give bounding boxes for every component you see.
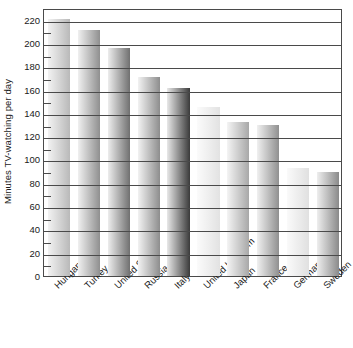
y-tick-label: 200: [14, 39, 40, 49]
y-minor-tick: [44, 196, 51, 197]
y-tick-label: 40: [14, 225, 40, 235]
x-axis-category-labels: HungaryTurkeyUnited StatesRussiaItalyUni…: [43, 277, 342, 348]
gridline: [44, 231, 341, 232]
bar: [167, 88, 189, 276]
bar: [78, 30, 100, 276]
y-tick-label: 100: [14, 155, 40, 165]
gridline: [44, 138, 341, 139]
gridline: [44, 208, 341, 209]
y-tick-label: 160: [14, 86, 40, 96]
bar: [48, 19, 70, 277]
y-tick-label: 0: [14, 272, 40, 282]
y-minor-tick: [44, 220, 51, 221]
bar: [138, 77, 160, 276]
bar: [227, 122, 249, 276]
y-axis-title-text: Minutes TV-watching per day: [3, 78, 14, 203]
gridline: [44, 22, 341, 23]
bar: [317, 172, 339, 276]
y-minor-tick: [44, 33, 51, 34]
y-tick-label: 120: [14, 132, 40, 142]
y-minor-tick: [44, 173, 51, 174]
y-tick-label: 220: [14, 16, 40, 26]
y-minor-tick: [44, 243, 51, 244]
y-tick-label: 140: [14, 109, 40, 119]
bar: [257, 125, 279, 276]
bar: [197, 107, 219, 276]
y-tick-label: 80: [14, 179, 40, 189]
gridline: [44, 255, 341, 256]
plot-area: [43, 9, 342, 277]
y-minor-tick: [44, 103, 51, 104]
y-minor-tick: [44, 266, 51, 267]
gridline: [44, 92, 341, 93]
y-tick-label: 60: [14, 202, 40, 212]
y-minor-tick: [44, 80, 51, 81]
gridline: [44, 185, 341, 186]
y-minor-tick: [44, 150, 51, 151]
y-minor-tick: [44, 57, 51, 58]
gridline: [44, 68, 341, 69]
gridline: [44, 45, 341, 46]
bars-layer: [44, 10, 341, 276]
y-tick-label: 20: [14, 249, 40, 259]
y-axis-tick-labels: 020406080100120140160180200220: [14, 0, 40, 282]
gridline: [44, 161, 341, 162]
y-tick-label: 180: [14, 62, 40, 72]
y-minor-tick: [44, 127, 51, 128]
gridline: [44, 115, 341, 116]
